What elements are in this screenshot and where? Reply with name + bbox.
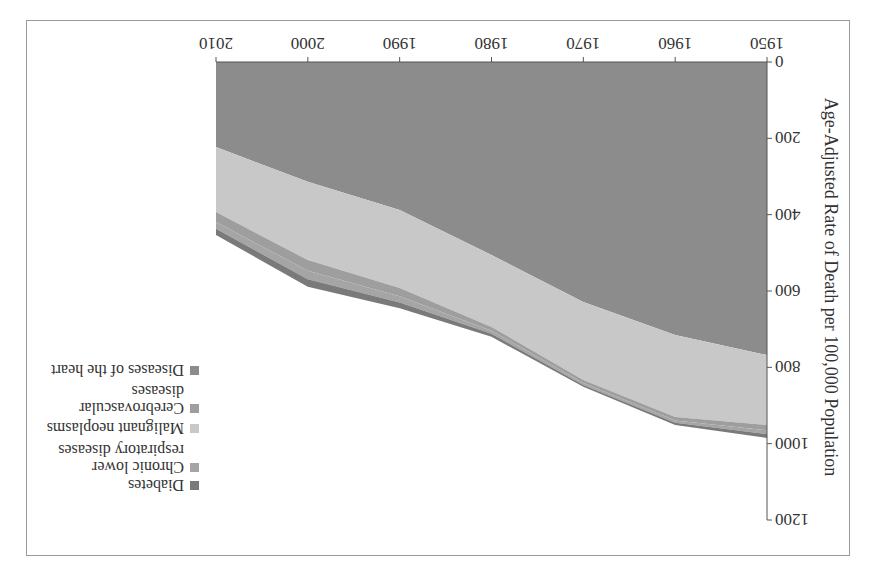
legend-label: Diabetes — [128, 477, 184, 494]
legend-swatch — [190, 463, 199, 472]
legend: DiabetesChronic lowerrespiratory disease… — [47, 362, 199, 494]
legend-label: Cerebrovascular — [78, 400, 184, 417]
x-tick-label: 1950 — [750, 34, 784, 53]
legend-swatch — [190, 424, 199, 433]
legend-item: Diabetes — [128, 477, 199, 494]
y-tick-label: 1200 — [775, 510, 809, 529]
x-tick-label: 1970 — [566, 34, 600, 53]
y-tick-label: 0 — [775, 52, 784, 71]
chart-stage: 1950196019701980199020002010020040060080… — [0, 0, 874, 570]
legend-swatch — [190, 366, 199, 375]
x-tick-label: 2010 — [199, 34, 233, 53]
legend-swatch — [190, 404, 199, 413]
y-tick-label: 600 — [775, 281, 801, 300]
y-tick-label: 400 — [775, 205, 801, 224]
legend-item: Malignant neoplasms — [47, 419, 199, 437]
legend-item: Diseases of the heart — [51, 362, 199, 379]
y-axis-label: Age-Adjusted Rate of Death per 100,000 P… — [821, 98, 841, 476]
x-tick-label: 2000 — [291, 34, 325, 53]
legend-item: Chronic lowerrespiratory diseases — [58, 441, 199, 476]
x-tick-label: 1960 — [658, 34, 692, 53]
legend-label: Malignant neoplasms — [47, 419, 184, 437]
area-series-group — [216, 62, 767, 438]
legend-label: diseases — [132, 383, 184, 400]
legend-swatch — [190, 481, 199, 490]
legend-label: respiratory diseases — [58, 441, 184, 459]
legend-label: Diseases of the heart — [51, 362, 184, 379]
y-tick-label: 200 — [775, 128, 801, 147]
y-tick-label: 1000 — [775, 434, 809, 453]
legend-item: Cerebrovasculardiseases — [78, 383, 199, 417]
y-tick-label: 800 — [775, 357, 801, 376]
stacked-area-chart: 1950196019701980199020002010020040060080… — [0, 0, 874, 570]
x-tick-label: 1990 — [383, 34, 417, 53]
x-tick-label: 1980 — [475, 34, 509, 53]
legend-label: Chronic lower — [91, 459, 184, 476]
